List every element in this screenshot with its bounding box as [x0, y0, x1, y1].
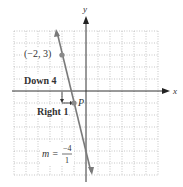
y-axis-label: y [82, 4, 87, 14]
axes [12, 20, 166, 182]
slope-numerator: −4 [63, 144, 72, 153]
point-p-label: P [77, 97, 84, 108]
down-arrow-head-icon [60, 99, 64, 103]
y-axis-arrow-icon [83, 16, 89, 24]
point-neg2-3 [59, 52, 64, 57]
point-p [71, 100, 76, 105]
point-a-label: (−2, 3) [24, 48, 51, 60]
slope-prefix: m = [42, 148, 58, 159]
line-arrow-top-icon [54, 29, 60, 37]
x-axis-label: x [172, 86, 177, 96]
right-label: Right 1 [37, 106, 68, 117]
coordinate-graph: x y (−2, 3) Down 4 P Right 1 m = −4 1 [0, 0, 183, 187]
line-arrow-bottom-icon [88, 167, 94, 175]
down-label: Down 4 [24, 75, 57, 86]
slope-denominator: 1 [65, 156, 69, 165]
x-axis-arrow-icon [162, 88, 170, 94]
